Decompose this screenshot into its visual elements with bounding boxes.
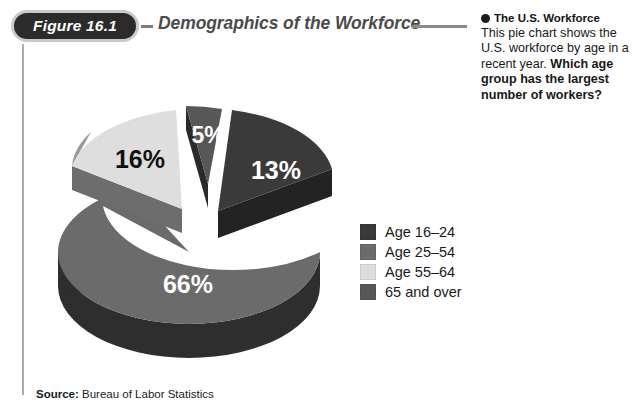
pie-slice-label-age-25-54: 66% bbox=[163, 270, 213, 298]
source-attribution: Source: Bureau of Labor Statistics bbox=[36, 388, 214, 400]
chart-legend: Age 16–24 Age 25–54 Age 55–64 65 and ove… bbox=[360, 222, 510, 302]
pie-slice-65-and-over: 5% bbox=[186, 106, 225, 208]
legend-label-age-55-64: Age 55–64 bbox=[385, 264, 455, 280]
legend-item-65-and-over: 65 and over bbox=[360, 282, 510, 302]
legend-item-age-16-24: Age 16–24 bbox=[360, 222, 510, 242]
side-note-heading-text: The U.S. Workforce bbox=[494, 12, 600, 24]
legend-item-age-25-54: Age 25–54 bbox=[360, 242, 510, 262]
filled-circle-bullet-icon bbox=[481, 14, 490, 23]
pie-chart: 66% 16% 5% 13% bbox=[36, 48, 366, 358]
side-note-panel: The U.S. Workforce This pie chart shows … bbox=[481, 11, 633, 103]
pie-slice-label-65-and-over: 5% bbox=[191, 122, 224, 148]
legend-label-age-25-54: Age 25–54 bbox=[385, 244, 455, 260]
legend-swatch-age-16-24 bbox=[360, 224, 376, 240]
left-vertical-divider bbox=[22, 44, 24, 395]
legend-swatch-age-55-64 bbox=[360, 264, 376, 280]
pie-slice-label-age-16-24: 13% bbox=[251, 156, 301, 184]
figure-number-label: Figure 16.1 bbox=[33, 17, 117, 35]
legend-label-age-16-24: Age 16–24 bbox=[385, 224, 455, 240]
title-rule-divider bbox=[412, 25, 467, 28]
source-text: Bureau of Labor Statistics bbox=[82, 388, 214, 400]
side-note-heading: The U.S. Workforce bbox=[481, 11, 633, 25]
legend-item-age-55-64: Age 55–64 bbox=[360, 262, 510, 282]
pie-chart-svg: 66% 16% 5% 13% bbox=[36, 48, 366, 358]
source-label: Source: bbox=[36, 388, 79, 400]
legend-swatch-65-and-over bbox=[360, 284, 376, 300]
pie-slice-label-age-55-64: 16% bbox=[115, 145, 165, 173]
figure-number-badge: Figure 16.1 bbox=[14, 13, 136, 39]
badge-connector-dash bbox=[141, 25, 153, 28]
side-note-body: This pie chart shows the U.S. workforce … bbox=[481, 26, 633, 103]
legend-swatch-age-25-54 bbox=[360, 244, 376, 260]
page-title: Demographics of the Workforce bbox=[158, 13, 420, 34]
pie-slice-age-16-24: 13% bbox=[218, 110, 332, 238]
legend-label-65-and-over: 65 and over bbox=[385, 284, 462, 300]
